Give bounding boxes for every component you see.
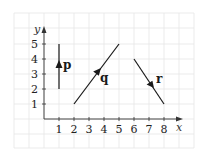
y-axis-arrow-icon xyxy=(42,26,47,33)
y-tick-label: 4 xyxy=(31,53,38,66)
vector-label-r: r xyxy=(156,72,163,86)
x-tick-label: 7 xyxy=(146,123,153,136)
y-tick-label: 3 xyxy=(31,68,38,81)
x-tick-label: 3 xyxy=(86,123,93,136)
x-tick-label: 1 xyxy=(56,123,63,136)
vector-p: p xyxy=(56,44,72,89)
y-tick-label: 5 xyxy=(31,38,38,51)
x-tick-label: 5 xyxy=(116,123,123,136)
x-tick-label: 4 xyxy=(101,123,108,136)
vector-label-p: p xyxy=(63,58,71,72)
arrow-down-right-icon xyxy=(147,81,154,88)
y-tick-label: 1 xyxy=(31,98,38,111)
vector-diagram: 1 2 3 4 5 6 7 8 1 2 3 4 5 x y p q r xyxy=(0,0,203,156)
x-tick-label: 2 xyxy=(71,123,78,136)
x-tick-label: 6 xyxy=(131,123,138,136)
y-tick-label: 2 xyxy=(31,83,38,96)
arrow-up-icon xyxy=(56,60,63,68)
x-axis-label: x xyxy=(176,121,183,134)
y-axis-label: y xyxy=(33,23,41,36)
vector-label-q: q xyxy=(100,71,109,85)
x-tick-label: 8 xyxy=(161,123,168,136)
